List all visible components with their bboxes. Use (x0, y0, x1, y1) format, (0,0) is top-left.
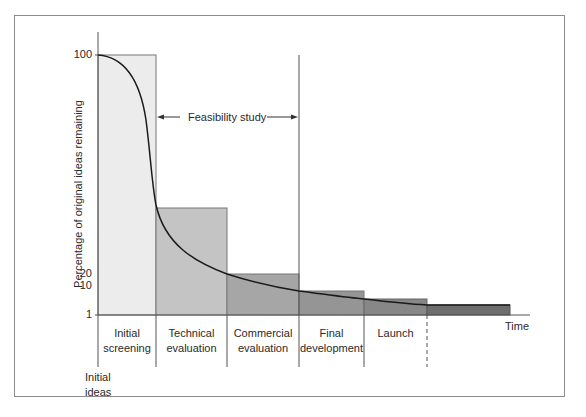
x-axis-label: Time (505, 319, 529, 333)
feasibility-study-label: Feasibility study (188, 110, 266, 124)
y-axis-label: Percentage of original ideas remaining (72, 94, 84, 294)
initial-ideas-label: Initial ideas (85, 370, 111, 400)
category-initial-screening: Initial screening (98, 326, 156, 356)
category-commercial-evaluation: Commercial evaluation (227, 326, 299, 356)
bar-technical-evaluation (156, 208, 227, 315)
category-final-development: Final development (299, 326, 364, 356)
y-tick-20: 20 (62, 267, 92, 279)
bar-initial-screening (98, 55, 156, 315)
bar-launch (364, 299, 427, 315)
bar-post-launch (427, 305, 510, 315)
y-tick-100: 100 (62, 48, 92, 60)
y-tick-1: 1 (62, 308, 92, 320)
category-launch: Launch (364, 326, 427, 341)
bar-commercial-evaluation (227, 274, 299, 315)
category-technical-evaluation: Technical evaluation (156, 326, 227, 356)
y-tick-10: 10 (62, 279, 92, 291)
